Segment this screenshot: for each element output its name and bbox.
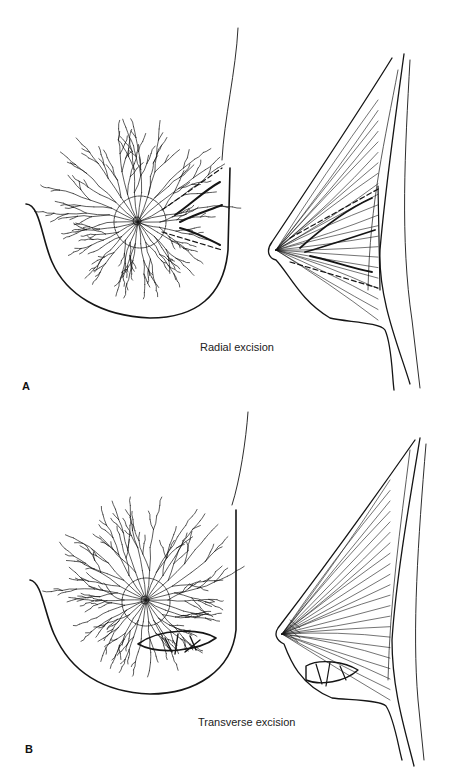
lateral-duct-lines (282, 480, 390, 700)
panel-a: Radial excision A (0, 0, 466, 400)
caption-radial-excision: Radial excision (200, 341, 274, 353)
caption-transverse-excision: Transverse excision (198, 716, 295, 728)
frontal-breast-outline (26, 28, 238, 318)
duct-tree-frontal (43, 497, 245, 677)
lateral-breast-outline (276, 438, 426, 766)
lateral-breast-outline (269, 54, 420, 390)
panel-a-illustration (0, 0, 466, 400)
lateral-duct-lines (276, 100, 378, 320)
panel-b: Transverse excision B (0, 400, 466, 773)
panel-letter-a: A (22, 380, 30, 392)
panel-letter-b: B (25, 743, 33, 755)
